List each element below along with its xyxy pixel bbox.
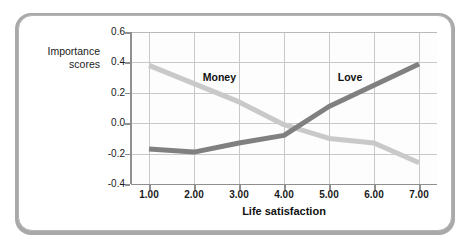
- x-axis-tick-label: 2.00: [174, 189, 214, 200]
- series-line-love: [149, 64, 419, 152]
- y-axis-title-line-2: scores: [32, 58, 100, 71]
- x-axis-tick-label: 4.00: [264, 189, 304, 200]
- x-axis-tick-label: 5.00: [309, 189, 349, 200]
- y-axis-title: Importance scores: [32, 45, 100, 71]
- y-axis-tick-labels: 0.60.40.20.0-0.2-0.4: [93, 32, 125, 184]
- series-annotation-money: Money: [201, 71, 238, 83]
- series-line-money: [149, 65, 419, 162]
- x-axis-tick-label: 7.00: [399, 189, 439, 200]
- y-axis-tick-label: 0.0: [95, 117, 125, 128]
- x-axis-tick-label: 1.00: [129, 189, 169, 200]
- y-axis-tick: [125, 184, 130, 186]
- x-axis-tick-label: 6.00: [354, 189, 394, 200]
- y-axis-tick-label: -0.2: [95, 148, 125, 159]
- figure-root: Importance scores 0.60.40.20.0-0.2-0.4 M…: [0, 0, 469, 249]
- x-axis-tick-label: 3.00: [219, 189, 259, 200]
- y-axis-title-line-1: Importance: [32, 45, 100, 58]
- y-axis-tick-label: 0.2: [95, 87, 125, 98]
- plot-area: MoneyLove: [131, 32, 437, 184]
- series-annotation-love: Love: [336, 71, 365, 83]
- y-axis-tick-label: 0.6: [95, 26, 125, 37]
- y-axis-tick-label: 0.4: [95, 56, 125, 67]
- series-lines: [131, 32, 437, 184]
- x-axis-title: Life satisfaction: [131, 205, 437, 217]
- y-axis-tick-label: -0.4: [95, 178, 125, 189]
- x-axis-tick-labels: 1.002.003.004.005.006.007.00: [131, 189, 437, 205]
